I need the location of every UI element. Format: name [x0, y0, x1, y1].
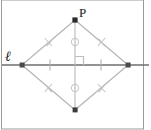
- point-bottom-vertex-marker: [73, 107, 78, 112]
- line-l-label: ℓ: [5, 50, 11, 64]
- point-left-vertex-marker: [20, 63, 25, 68]
- point-p-label: P: [79, 6, 86, 19]
- point-p-marker: [72, 17, 77, 22]
- geometry-figure: P ℓ: [0, 0, 151, 130]
- point-right-vertex-marker: [126, 63, 131, 68]
- diagram-canvas: [0, 0, 151, 130]
